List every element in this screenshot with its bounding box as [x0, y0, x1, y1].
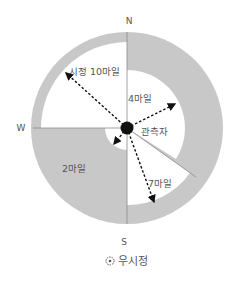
sector-10mile — [41, 42, 127, 128]
visibility-diagram: N S W 시정 10마일 4마일 관측자 2마일 7마일 우시정 — [0, 0, 235, 284]
compass-north: N — [126, 16, 133, 26]
compass-south: S — [121, 237, 127, 247]
label-observer: 관측자 — [141, 126, 168, 137]
label-10mile: 시정 10마일 — [69, 66, 120, 77]
caption-text: 우시정 — [118, 255, 148, 268]
label-2mile: 2마일 — [62, 163, 86, 174]
compass-west: W — [17, 123, 26, 133]
label-7mile: 7마일 — [148, 178, 172, 189]
label-4mile: 4마일 — [128, 93, 152, 104]
caption-bullet-center-icon — [109, 260, 112, 263]
caption: 우시정 — [106, 255, 148, 268]
observer-dot — [121, 122, 134, 135]
